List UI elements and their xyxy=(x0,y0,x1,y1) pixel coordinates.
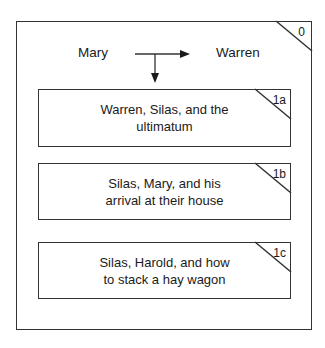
sub-box-1a-text: Warren, Silas, and the ultimatum xyxy=(39,101,290,135)
node-mary: Mary xyxy=(78,45,108,61)
node-warren: Warren xyxy=(216,45,260,61)
sub-box-1b-text: Silas, Mary, and his arrival at their ho… xyxy=(39,175,290,209)
sub-box-1c-line2: to stack a hay wagon xyxy=(39,271,290,288)
sub-box-1c-line1: Silas, Harold, and how xyxy=(39,254,290,271)
sub-box-1c-text: Silas, Harold, and how to stack a hay wa… xyxy=(39,254,290,288)
corner-diagonal-0 xyxy=(276,21,312,51)
sub-box-1a-line2: ultimatum xyxy=(39,118,290,135)
outer-box-id: 0 xyxy=(298,26,305,38)
sub-box-1a-line1: Warren, Silas, and the xyxy=(39,101,290,118)
sub-box-1a: 1a Warren, Silas, and the ultimatum xyxy=(38,89,291,147)
sub-box-1c: 1c Silas, Harold, and how to stack a hay… xyxy=(38,242,291,299)
sub-box-1b-line1: Silas, Mary, and his xyxy=(39,175,290,192)
sub-box-1b: 1b Silas, Mary, and his arrival at their… xyxy=(38,163,291,220)
sub-box-1b-line2: arrival at their house xyxy=(39,192,290,209)
